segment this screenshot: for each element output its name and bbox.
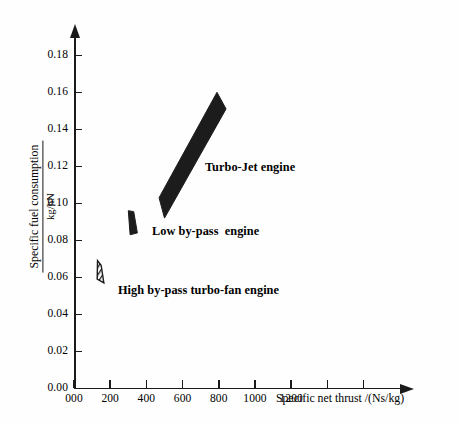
annotation-high-by-pass: High by-pass turbo-fan engine [118,283,279,297]
data-region-low-by-pass [128,211,137,235]
annotation-low-by-pass: Low by-pass engine [152,224,259,238]
regions-svg [0,0,459,425]
annotation-turbo-jet: Turbo-Jet engine [205,160,295,174]
chart-canvas: 0.000.020.040.060.080.100.120.140.160.18… [0,0,459,425]
data-region-high-by-pass-turbo-fan [97,261,104,283]
data-region-turbo-jet [159,92,226,218]
